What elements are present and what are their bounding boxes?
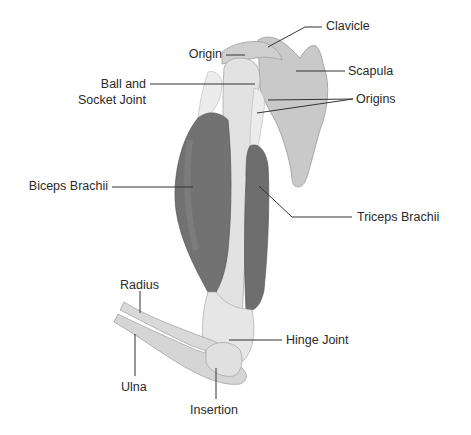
label-origin: Origin xyxy=(147,47,222,62)
triceps-muscle xyxy=(245,145,269,310)
label-clavicle: Clavicle xyxy=(326,19,370,34)
label-ball-socket-1: Ball and xyxy=(60,77,146,92)
label-ball-socket-2: Socket Joint xyxy=(60,93,146,108)
label-origins: Origins xyxy=(356,92,396,107)
label-biceps-brachii: Biceps Brachii xyxy=(10,179,108,194)
label-radius: Radius xyxy=(120,278,159,293)
label-scapula: Scapula xyxy=(348,64,393,79)
scapula-bone xyxy=(258,37,328,187)
label-insertion: Insertion xyxy=(190,403,238,418)
label-ulna: Ulna xyxy=(121,380,147,395)
label-triceps-brachii: Triceps Brachii xyxy=(357,210,439,225)
label-hinge-joint: Hinge Joint xyxy=(286,333,349,348)
biceps-muscle xyxy=(175,113,231,292)
biceps-tendon xyxy=(198,71,222,118)
